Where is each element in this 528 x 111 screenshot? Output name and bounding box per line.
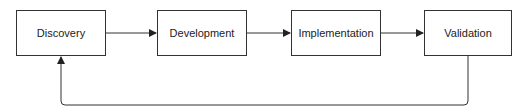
node-label: Validation <box>444 27 492 39</box>
node-label: Development <box>170 27 235 39</box>
node-discovery[interactable]: Discovery <box>16 10 106 56</box>
node-implementation[interactable]: Implementation <box>291 10 381 56</box>
edge-validation-discovery-feedback <box>61 56 468 105</box>
node-validation[interactable]: Validation <box>424 10 512 56</box>
node-label: Discovery <box>37 27 85 39</box>
node-development[interactable]: Development <box>157 10 247 56</box>
node-label: Implementation <box>298 27 373 39</box>
